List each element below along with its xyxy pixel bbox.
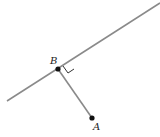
line xyxy=(7,3,160,101)
perpendicular-segment-BA xyxy=(58,69,92,118)
right-angle-marker xyxy=(63,66,74,73)
label-A: A xyxy=(92,121,100,132)
label-B: B xyxy=(49,55,57,66)
point-B xyxy=(55,66,60,71)
point-A xyxy=(89,115,94,120)
geometry-diagram: B A xyxy=(0,0,160,137)
